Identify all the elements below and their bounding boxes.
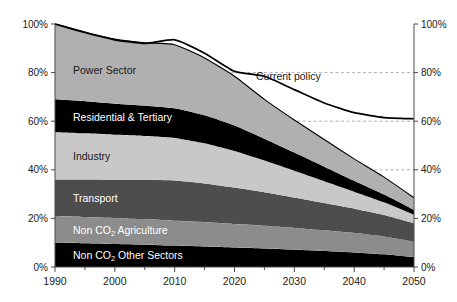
y-tick-label-right-100: 100% xyxy=(421,19,447,30)
y-tick-label-left-0: 0% xyxy=(34,262,49,273)
series-label-industry: Industry xyxy=(73,150,111,162)
x-tick-label-2040: 2040 xyxy=(343,275,367,287)
x-tick-label-2000: 2000 xyxy=(103,275,127,287)
stacked-area-chart: 100%100%80%80%60%60%40%40%20%20%0%0%1990… xyxy=(0,0,457,302)
x-tick-label-2030: 2030 xyxy=(283,275,307,287)
series-label-residential-tertiary: Residential & Tertiary xyxy=(73,111,173,123)
y-tick-label-right-20: 20% xyxy=(421,213,441,224)
y-tick-label-right-40: 40% xyxy=(421,164,441,175)
y-tick-label-left-60: 60% xyxy=(28,116,48,127)
x-tick-label-1990: 1990 xyxy=(43,275,67,287)
y-tick-label-right-0: 0% xyxy=(421,262,436,273)
y-tick-label-left-100: 100% xyxy=(22,19,48,30)
annotation-label-current-policy: Current policy xyxy=(256,70,322,82)
x-tick-label-2020: 2020 xyxy=(223,275,247,287)
y-tick-label-right-80: 80% xyxy=(421,67,441,78)
annotation-labels: Current policy xyxy=(256,70,322,82)
series-label-power-sector: Power Sector xyxy=(73,64,137,76)
series-label-transport: Transport xyxy=(73,192,118,204)
x-tick-label-2010: 2010 xyxy=(163,275,187,287)
y-tick-label-right-60: 60% xyxy=(421,116,441,127)
chart-canvas: 100%100%80%80%60%60%40%40%20%20%0%0%1990… xyxy=(0,0,457,302)
x-tick-label-2050: 2050 xyxy=(402,275,426,287)
y-tick-label-left-40: 40% xyxy=(28,164,48,175)
y-tick-label-left-80: 80% xyxy=(28,67,48,78)
y-tick-label-left-20: 20% xyxy=(28,213,48,224)
